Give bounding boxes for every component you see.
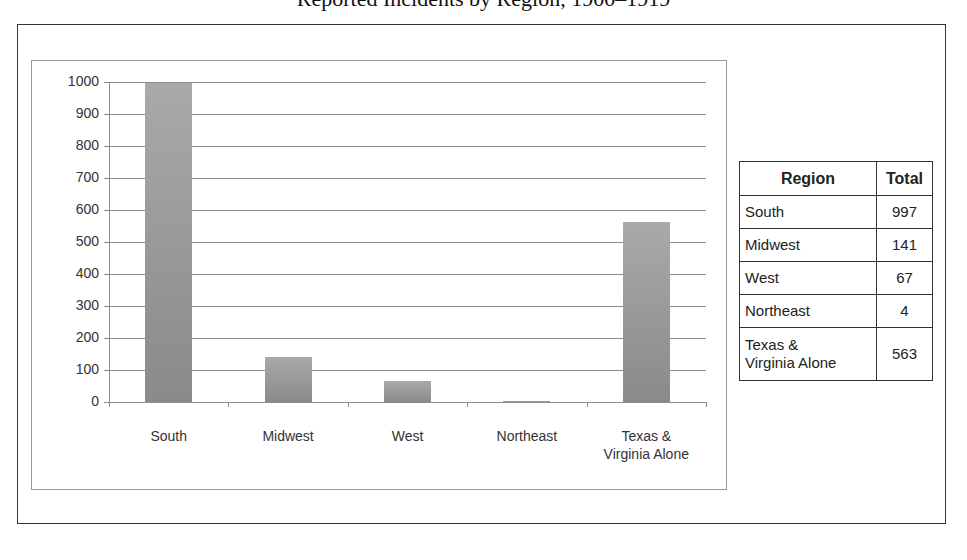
y-tick-label: 300 — [39, 297, 99, 313]
x-tick-mark — [348, 402, 349, 407]
table-row: Midwest 141 — [740, 229, 933, 262]
table-row: Texas & Virginia Alone 563 — [740, 328, 933, 381]
x-tick-mark — [706, 402, 707, 407]
x-tick-mark — [109, 402, 110, 407]
bar-south — [145, 83, 192, 402]
bar-northeast — [503, 401, 550, 402]
x-category-label-line: South — [109, 427, 229, 445]
x-category-label-line: Midwest — [228, 427, 348, 445]
gridline — [109, 82, 706, 83]
y-tick-label: 0 — [39, 393, 99, 409]
table-header-row: Region Total — [740, 162, 933, 196]
y-tick-label: 600 — [39, 201, 99, 217]
cell-region-line-1: Texas & — [745, 336, 871, 354]
cell-region: South — [740, 196, 877, 229]
y-tick-label: 500 — [39, 233, 99, 249]
column-header-region: Region — [740, 162, 877, 196]
cell-total: 4 — [877, 295, 933, 328]
cell-region: West — [740, 262, 877, 295]
y-tick-label: 800 — [39, 137, 99, 153]
x-category-label: Texas &Virginia Alone — [586, 427, 706, 463]
cell-total: 67 — [877, 262, 933, 295]
table-row: West 67 — [740, 262, 933, 295]
gridline — [109, 114, 706, 115]
x-category-label: West — [348, 427, 468, 445]
cell-region-line-2: Virginia Alone — [745, 354, 871, 372]
gridline — [109, 210, 706, 211]
cell-total: 141 — [877, 229, 933, 262]
y-tick-label: 1000 — [39, 73, 99, 89]
gridline — [109, 178, 706, 179]
table-row: South 997 — [740, 196, 933, 229]
cell-region: Texas & Virginia Alone — [740, 328, 877, 381]
x-axis — [109, 402, 706, 403]
chart-container: 01002003004005006007008009001000SouthMid… — [31, 60, 727, 490]
cell-total: 563 — [877, 328, 933, 381]
bar-midwest — [265, 357, 312, 402]
gridline — [109, 338, 706, 339]
cell-total: 997 — [877, 196, 933, 229]
y-tick-label: 100 — [39, 361, 99, 377]
cell-region: Midwest — [740, 229, 877, 262]
gridline — [109, 274, 706, 275]
table-row: Northeast 4 — [740, 295, 933, 328]
cell-region: Northeast — [740, 295, 877, 328]
region-totals-table: Region Total South 997 Midwest 141 West … — [739, 161, 933, 381]
gridline — [109, 146, 706, 147]
x-category-label-line: Texas & — [586, 427, 706, 445]
x-category-label: Northeast — [467, 427, 587, 445]
bar-texas-virginia-alone — [623, 222, 670, 402]
bar-west — [384, 381, 431, 402]
x-tick-mark — [467, 402, 468, 407]
x-tick-mark — [228, 402, 229, 407]
x-category-label-line: Virginia Alone — [586, 445, 706, 463]
y-tick-label: 700 — [39, 169, 99, 185]
page-title: Reported Incidents by Region, 1900–1919 — [0, 0, 967, 12]
y-axis — [109, 82, 110, 402]
x-category-label: South — [109, 427, 229, 445]
gridline — [109, 306, 706, 307]
x-tick-mark — [587, 402, 588, 407]
gridline — [109, 242, 706, 243]
column-header-total: Total — [877, 162, 933, 196]
gridline — [109, 370, 706, 371]
y-tick-label: 900 — [39, 105, 99, 121]
x-category-label: Midwest — [228, 427, 348, 445]
y-tick-label: 200 — [39, 329, 99, 345]
x-category-label-line: West — [348, 427, 468, 445]
x-category-label-line: Northeast — [467, 427, 587, 445]
y-tick-label: 400 — [39, 265, 99, 281]
